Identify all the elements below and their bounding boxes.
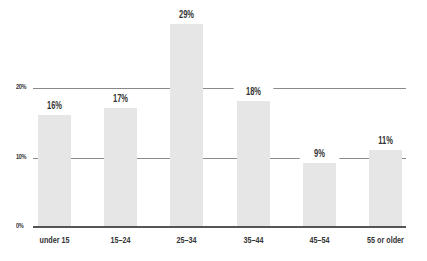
bar-2: [170, 24, 203, 226]
x-axis-line: [33, 226, 406, 228]
gridline-10: [33, 158, 406, 159]
value-label: 18%: [234, 86, 274, 97]
bar-chart: 20% 10% 0% 16%under 1517%15–2429%25–3418…: [0, 0, 427, 261]
value-label: 16%: [35, 100, 75, 111]
value-label: 9%: [300, 148, 340, 159]
value-label: 29%: [167, 9, 207, 20]
x-tick-label: under 15: [29, 235, 79, 245]
bar-3: [237, 101, 270, 226]
value-label: 17%: [101, 93, 141, 104]
y-tick-20: 20%: [16, 83, 27, 90]
x-tick-label: 25–34: [161, 235, 211, 245]
bar-0: [38, 115, 71, 226]
x-tick-label: 35–44: [228, 235, 278, 245]
x-tick-label: 55 or older: [360, 235, 410, 245]
y-tick-10: 10%: [16, 153, 27, 160]
bar-5: [369, 150, 402, 226]
x-tick-label: 45–54: [294, 235, 344, 245]
value-label: 11%: [366, 135, 406, 146]
bar-1: [104, 108, 137, 226]
bar-4: [303, 163, 336, 226]
y-tick-0: 0%: [16, 222, 27, 229]
gridline-20: [33, 88, 406, 89]
x-tick-label: 15–24: [95, 235, 145, 245]
